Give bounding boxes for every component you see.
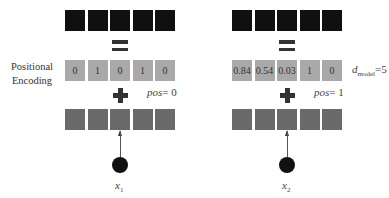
label-line-1: Positional (5, 60, 59, 74)
pe-cell: 0 (110, 60, 130, 81)
pe-cell: 0 (65, 60, 85, 81)
embedding-cell (232, 10, 252, 31)
pos-label: pos= 1 (314, 86, 344, 98)
embedding-cell (110, 10, 130, 31)
pe-cell: 0 (322, 60, 342, 81)
pe-cell: 1 (300, 60, 320, 81)
input-cell (88, 109, 108, 130)
pe-cell: 0 (155, 60, 175, 81)
input-cell (300, 109, 320, 130)
pe-cell: 1 (88, 60, 108, 81)
equals-icon (279, 40, 295, 51)
pos-name: pos (147, 86, 162, 98)
input-embedding-row (232, 109, 342, 130)
pe-cell: 1 (133, 60, 153, 81)
equals-icon (112, 40, 128, 51)
embedding-output-row (232, 10, 342, 31)
input-cell (232, 109, 252, 130)
input-cell (110, 109, 130, 130)
input-cell (155, 109, 175, 130)
input-cell (277, 109, 297, 130)
input-token-label: x2 (282, 179, 290, 194)
d-model-subscript: model (358, 70, 376, 78)
input-cell (65, 109, 85, 130)
pos-name: pos (314, 86, 329, 98)
pe-cell: 0.03 (277, 60, 297, 81)
embedding-cell (155, 10, 175, 31)
x-subscript: 1 (120, 186, 124, 194)
plus-icon (113, 88, 128, 103)
pe-cell: 0.84 (232, 60, 252, 81)
input-token-node (279, 157, 295, 173)
input-cell (133, 109, 153, 130)
pos-value: = 0 (162, 86, 176, 98)
positional-encoding-label: Positional Encoding (5, 60, 59, 88)
embedding-cell (277, 10, 297, 31)
positional-encoding-row: 0.84 0.54 0.03 1 0 (232, 60, 342, 81)
positional-encoding-row: 0 1 0 1 0 (65, 60, 175, 81)
arrow-line (287, 131, 288, 157)
plus-icon (280, 88, 295, 103)
pe-cell: 0.54 (255, 60, 275, 81)
embedding-output-row (65, 10, 175, 31)
pos-label: pos= 0 (147, 86, 177, 98)
embedding-cell (88, 10, 108, 31)
embedding-cell (65, 10, 85, 31)
input-token-node (112, 157, 128, 173)
token-group-1: 0 1 0 1 0 pos= 0 x1 (65, 0, 177, 198)
d-model-label: dmodel=5 (352, 63, 387, 78)
embedding-cell (300, 10, 320, 31)
d-model-value: =5 (375, 63, 387, 75)
input-cell (322, 109, 342, 130)
label-line-2: Encoding (5, 74, 59, 88)
x-subscript: 2 (287, 186, 291, 194)
embedding-cell (322, 10, 342, 31)
input-embedding-row (65, 109, 175, 130)
input-token-label: x1 (115, 179, 123, 194)
pos-value: = 1 (329, 86, 343, 98)
embedding-cell (133, 10, 153, 31)
input-cell (255, 109, 275, 130)
embedding-cell (255, 10, 275, 31)
token-group-2: 0.84 0.54 0.03 1 0 pos= 1 x2 (232, 0, 344, 198)
arrow-line (120, 131, 121, 157)
